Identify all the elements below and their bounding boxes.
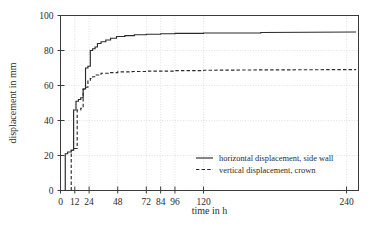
- chart-legend: horizontal displacement, side wallvertic…: [196, 154, 334, 175]
- x-tick-label: 24: [84, 197, 94, 207]
- y-tick-label: 80: [44, 46, 54, 56]
- displacement-vs-time-chart: 0122448728496120240 020406080100 time in…: [0, 0, 377, 229]
- x-tick-label: 72: [142, 197, 152, 207]
- x-tick-label: 240: [339, 197, 354, 207]
- legend-label-1: horizontal displacement, side wall: [219, 154, 334, 163]
- x-tick-label: 84: [156, 197, 166, 207]
- y-tick-label: 20: [44, 151, 54, 161]
- y-tick-label: 40: [44, 116, 54, 126]
- x-tick-label: 12: [70, 197, 80, 207]
- y-tick-label: 100: [39, 11, 54, 21]
- x-tick-label: 96: [170, 197, 180, 207]
- y-axis-title: displacement in mm: [7, 62, 18, 143]
- y-tick-label: 60: [44, 81, 54, 91]
- chart-figure: 0122448728496120240 020406080100 time in…: [0, 0, 377, 229]
- y-axis-tick-labels: 020406080100: [39, 11, 54, 196]
- x-axis-title: time in h: [192, 205, 228, 216]
- x-tick-label: 0: [58, 197, 63, 207]
- y-tick-label: 0: [49, 186, 54, 196]
- x-tick-label: 48: [113, 197, 123, 207]
- legend-label-2: vertical displacement, crown: [219, 166, 316, 175]
